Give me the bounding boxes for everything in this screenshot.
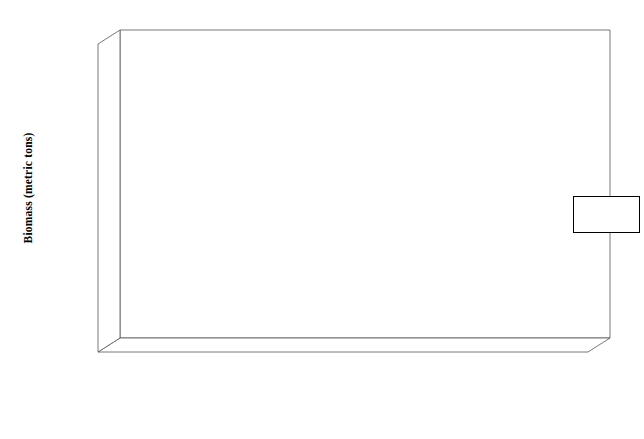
chart-legend — [573, 196, 640, 233]
bar-chart: Biomass (metric tons) — [0, 0, 644, 439]
x-axis-category-labels — [0, 362, 644, 439]
